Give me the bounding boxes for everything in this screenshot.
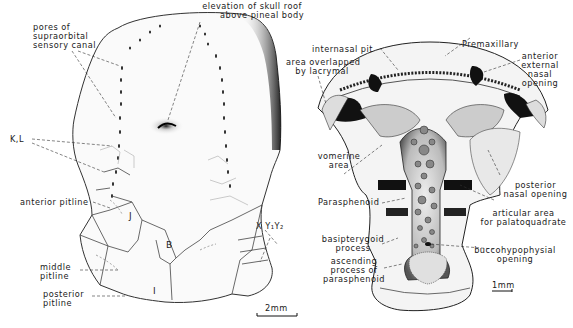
label-line: opening xyxy=(470,255,560,264)
label-premaxillary: Premaxillary xyxy=(462,40,519,49)
label-pineal-elevation: elevation of skull roof above pineal bod… xyxy=(186,2,318,20)
label-vomerine-area: vomerine area xyxy=(314,152,364,170)
label-anterior-pitline: anterior pitline xyxy=(20,198,89,207)
label-parasphenoid: Parasphenoid xyxy=(318,198,379,207)
label-posterior-nasal-opening: posterior nasal opening xyxy=(498,181,573,199)
label-line: process xyxy=(318,244,388,253)
label-line: by lacrymal xyxy=(286,67,358,76)
label-line: for palatoquadrate xyxy=(474,218,573,227)
label-i: I xyxy=(153,287,156,296)
label-line: area xyxy=(314,161,364,170)
skull-roof-outline xyxy=(73,13,281,303)
label-scale-2mm: 2mm xyxy=(265,304,288,313)
label-line: parasphenoid xyxy=(320,275,388,284)
buccohypophysial-opening xyxy=(425,242,431,246)
label-kl: K,L xyxy=(10,135,24,144)
label-line: above pineal body xyxy=(186,11,318,20)
label-supraorbital-pores: pores of supraorbital sensory canal xyxy=(33,23,96,50)
label-line: sensory canal xyxy=(33,41,96,50)
label-articular-area: articular area for palatoquadrate xyxy=(474,209,573,227)
label-posterior-pitline: posterior pitline xyxy=(43,290,84,308)
label-internasal-pit: internasal pit xyxy=(312,45,373,54)
scale-bar-2mm xyxy=(257,313,297,316)
label-lacrymal-area: area overlapped by lacrymal xyxy=(286,58,358,76)
label-j: J xyxy=(129,212,132,221)
label-line: pitline xyxy=(40,272,71,281)
label-scale-1mm: 1mm xyxy=(492,281,515,290)
label-line: pitline xyxy=(43,299,84,308)
label-line: opening xyxy=(510,79,570,88)
label-ascending-process: ascending process of parasphenoid xyxy=(320,257,388,284)
label-line: nasal opening xyxy=(498,190,573,199)
label-anterior-external-nasal-opening: anterior external nasal opening xyxy=(510,52,570,88)
label-buccohypophysial-opening: buccohypophysial opening xyxy=(470,246,560,264)
label-middle-pitline: middle pitline xyxy=(40,263,71,281)
pineal-elevation xyxy=(148,117,184,135)
label-b: B xyxy=(166,241,173,250)
label-basipterygoid-process: basipterygoid process xyxy=(318,235,388,253)
label-xy: X Y₁Y₂ xyxy=(256,222,284,231)
